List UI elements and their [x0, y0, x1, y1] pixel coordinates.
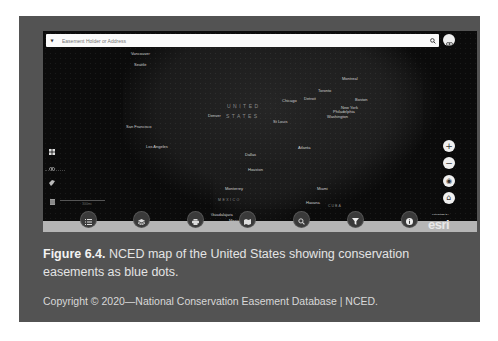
- share-link-button[interactable]: [443, 34, 455, 46]
- country-label-mexico: MEXICO: [218, 198, 241, 202]
- city-label: Havana: [306, 200, 320, 205]
- map-icon: [244, 210, 251, 229]
- city-label: Montreal: [342, 76, 358, 81]
- city-label: Atlanta: [298, 145, 310, 150]
- city-label: Monterrey: [225, 186, 243, 191]
- city-label: Los Angeles: [146, 144, 168, 149]
- print-button[interactable]: [188, 212, 203, 227]
- country-label-usa-1: UNITED: [227, 103, 261, 109]
- about-button[interactable]: [402, 212, 417, 227]
- minus-icon: −: [445, 159, 453, 168]
- city-label: San Francisco: [126, 124, 152, 129]
- country-label-usa-2: STATES: [226, 113, 260, 119]
- city-label: Boston: [355, 97, 367, 102]
- home-button[interactable]: ⌂: [443, 192, 455, 204]
- search-zoom-icon: [298, 210, 305, 229]
- locate-icon: ◉: [446, 178, 452, 185]
- filter-button[interactable]: [348, 212, 363, 227]
- city-label: Toronto: [318, 88, 331, 93]
- city-label: Chicago: [282, 98, 297, 103]
- table-icon: [50, 190, 55, 209]
- basemap-gallery-button[interactable]: [48, 145, 56, 153]
- search-bar: ▼: [46, 34, 439, 47]
- scale-bar: [60, 200, 105, 201]
- city-label: Detroit: [304, 96, 316, 101]
- plus-icon: +: [445, 142, 453, 151]
- esri-logo[interactable]: esri: [428, 218, 449, 231]
- ruler-icon: [49, 171, 55, 190]
- legend-button[interactable]: [81, 212, 96, 227]
- info-icon: [406, 210, 413, 229]
- locate-button[interactable]: ◉: [443, 175, 455, 187]
- easement-dots-layer: [43, 31, 477, 232]
- basemap-button[interactable]: [240, 212, 255, 227]
- layers-icon: [138, 210, 145, 229]
- zoom-out-button[interactable]: −: [443, 157, 455, 169]
- search-icon[interactable]: [427, 34, 439, 47]
- list-icon: [85, 210, 92, 229]
- filter-icon: [352, 210, 359, 229]
- country-label-cuba: CUBA: [328, 204, 342, 208]
- attribute-table-button[interactable]: [48, 195, 56, 203]
- map-view[interactable]: [43, 31, 477, 232]
- city-label: Miami: [317, 186, 328, 191]
- city-label: St Louis: [273, 119, 287, 124]
- layers-button[interactable]: [134, 212, 149, 227]
- city-label: Denver: [208, 113, 221, 118]
- query-button[interactable]: [294, 212, 309, 227]
- figure-label: Figure 6.4.: [43, 247, 106, 261]
- measure-button[interactable]: [48, 176, 56, 184]
- link-icon: [446, 31, 453, 50]
- zoom-in-button[interactable]: +: [443, 140, 455, 152]
- copyright-text: Copyright © 2020—National Conservation E…: [43, 295, 463, 307]
- search-input[interactable]: [58, 38, 427, 44]
- home-icon: ⌂: [446, 194, 451, 202]
- city-label: Guadalajara: [211, 212, 233, 217]
- city-label: Houston: [248, 167, 263, 172]
- city-label: Vancouver: [131, 51, 150, 56]
- scale-label: 300mi: [82, 202, 92, 206]
- print-icon: [192, 210, 199, 229]
- city-label: Washington: [327, 114, 348, 119]
- figure-caption: Figure 6.4. NCED map of the United State…: [43, 245, 463, 281]
- visibility-button[interactable]: [48, 161, 56, 169]
- powered-by-label: POWERED BY: [432, 213, 449, 216]
- city-label: Seattle: [134, 62, 146, 67]
- city-label: Dallas: [245, 152, 256, 157]
- caret-down-icon[interactable]: ▼: [46, 38, 58, 43]
- divider: [45, 170, 65, 171]
